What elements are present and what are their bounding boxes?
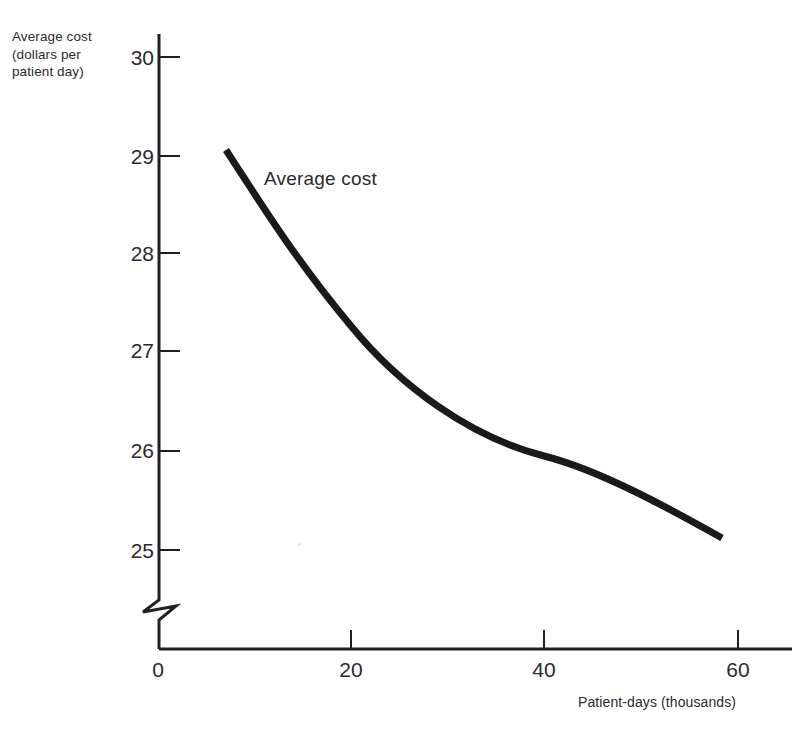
paper-speck <box>298 543 301 546</box>
chart-figure: Average cost (dollars per patient day) 3… <box>0 0 812 737</box>
plot-area <box>0 0 812 737</box>
average-cost-curve <box>226 150 722 538</box>
y-axis-break-icon <box>143 592 176 649</box>
